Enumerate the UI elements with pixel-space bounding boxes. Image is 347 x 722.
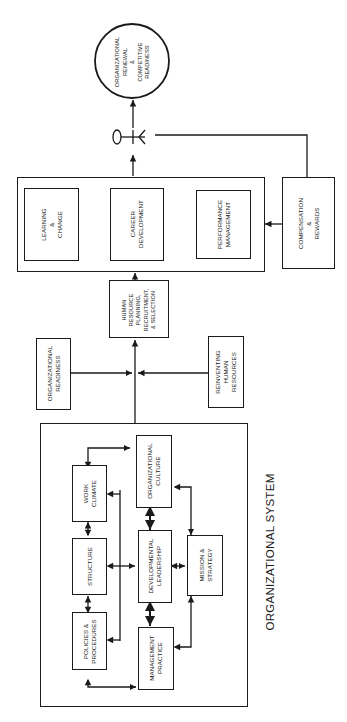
career-development-label: CAREER DEVELOPMENT xyxy=(110,188,164,261)
org-system-title: ORGANIZATIONAL SYSTEM xyxy=(262,472,278,632)
org-readiness-label: ORGANIZATIONAL READINESS xyxy=(36,338,71,410)
learning-change-label: LEARNING & CHANGE xyxy=(24,188,79,261)
management-practice-label: MANAGEMENT PRACTICE xyxy=(138,627,174,690)
policies-procedures-label: POLICIES & PROCEDURES xyxy=(72,613,107,671)
compensation-rewards-label: COMPENSATION & REWARDS xyxy=(282,178,335,270)
hr-planning-label: HUMAN RESOURCE PLANNING, RECRUITMENT, & … xyxy=(109,281,169,339)
developmental-leadership-label: DEVELOPMENTAL LEADERSHIP xyxy=(138,530,172,603)
performance-management-label: PERFORMANCE MANAGEMENT xyxy=(196,190,251,259)
structure-label: STRUCTURE xyxy=(72,538,107,595)
mission-strategy-label: MISSION & STRATEGY xyxy=(188,535,224,596)
org-culture-label: ORGANIZATIONAL CULTURE xyxy=(136,435,172,508)
reinventing-hr-label: REINVENTING HUMAN RESOURCES xyxy=(208,336,244,408)
outcome-label: ORGANIZATIONAL RENEWAL & COMPETITIVE REA… xyxy=(100,29,166,95)
work-climate-label: WORK CLIMATE xyxy=(72,465,107,522)
